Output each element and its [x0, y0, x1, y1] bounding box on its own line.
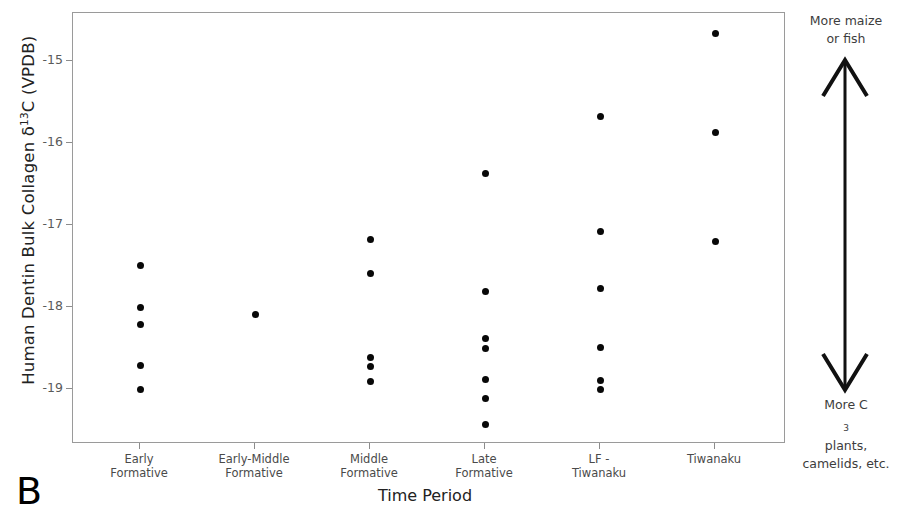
scatter-point: [597, 113, 604, 120]
scatter-point: [137, 262, 144, 269]
annotation-line-2: or fish: [778, 30, 906, 48]
x-axis-tick: [714, 443, 715, 449]
scatter-point: [482, 170, 489, 177]
y-axis-title-prefix: Human Dentin Bulk Collagen δ: [19, 126, 38, 385]
x-axis-tick-label-line: Tiwanaku: [654, 452, 774, 466]
annotation-line-1: More maize: [778, 12, 906, 30]
scatter-point: [712, 30, 719, 37]
annotation-line-1: More C3 plants,: [778, 396, 906, 455]
y-axis-title-superscript: 13: [18, 112, 30, 126]
scatter-point: [367, 236, 374, 243]
x-axis-tick: [599, 443, 600, 449]
annotation-more-c3-plants: More C3 plants, camelids, etc.: [778, 396, 906, 473]
figure-panel-b: Human Dentin Bulk Collagen δ13C (VPDB) -…: [0, 0, 906, 514]
scatter-point: [137, 386, 144, 393]
scatter-point: [252, 311, 259, 318]
scatter-point: [367, 363, 374, 370]
y-axis-tick-label: -16: [43, 134, 63, 149]
y-axis-title: Human Dentin Bulk Collagen δ13C (VPDB): [18, 0, 39, 420]
scatter-point: [137, 304, 144, 311]
x-axis-tick: [254, 443, 255, 449]
scatter-point: [597, 386, 604, 393]
y-axis-tick-label: -18: [43, 298, 63, 313]
scatter-point: [367, 378, 374, 385]
x-axis-tick-label: LateFormative: [424, 452, 544, 480]
x-axis-tick-label-line: Formative: [424, 466, 544, 480]
scatter-point: [712, 129, 719, 136]
scatter-point: [367, 354, 374, 361]
scatter-point: [482, 345, 489, 352]
x-axis-tick-label-line: Tiwanaku: [539, 466, 659, 480]
annotation-more-maize-or-fish: More maize or fish: [778, 12, 906, 48]
x-axis-tick: [139, 443, 140, 449]
scatter-point: [712, 238, 719, 245]
x-axis-tick-label-line: LF -: [539, 452, 659, 466]
scatter-point: [597, 377, 604, 384]
x-axis-tick-label: LF -Tiwanaku: [539, 452, 659, 480]
annotation-c3-prefix: More C: [778, 396, 906, 414]
annotation-c3-suffix: plants,: [778, 437, 906, 455]
annotation-line-2: camelids, etc.: [778, 455, 906, 473]
y-axis-tick-label: -17: [43, 216, 63, 231]
panel-label: B: [16, 472, 42, 510]
x-axis-tick-label-line: Early-Middle: [194, 452, 314, 466]
y-axis-title-suffix: C (VPDB): [19, 36, 38, 113]
x-axis-tick: [484, 443, 485, 449]
x-axis-tick-label: Tiwanaku: [654, 452, 774, 466]
y-axis-tick-label: -15: [43, 52, 63, 67]
scatter-point: [137, 321, 144, 328]
x-axis-tick: [369, 443, 370, 449]
x-axis-tick-label-line: Early: [79, 452, 199, 466]
scatter-point: [597, 285, 604, 292]
x-axis-tick-label: MiddleFormative: [309, 452, 429, 480]
x-axis-title: Time Period: [305, 486, 545, 505]
x-axis-tick-label-line: Formative: [309, 466, 429, 480]
y-axis-tick-label: -19: [43, 380, 63, 395]
x-axis-tick-label-line: Late: [424, 452, 544, 466]
scatter-point: [482, 395, 489, 402]
scatter-point: [482, 376, 489, 383]
annotation-c3-subscript: 3: [843, 423, 849, 433]
x-axis-tick-label: Early-MiddleFormative: [194, 452, 314, 480]
plot-area: [72, 12, 785, 443]
double-headed-vertical-arrow-icon: [805, 52, 885, 398]
scatter-point: [597, 228, 604, 235]
scatter-point: [482, 335, 489, 342]
scatter-point: [597, 344, 604, 351]
x-axis-tick-label-line: Middle: [309, 452, 429, 466]
scatter-point: [137, 362, 144, 369]
x-axis-tick-label-line: Formative: [79, 466, 199, 480]
scatter-point: [482, 288, 489, 295]
scatter-point: [367, 270, 374, 277]
x-axis-tick-label-line: Formative: [194, 466, 314, 480]
x-axis-tick-label: EarlyFormative: [79, 452, 199, 480]
scatter-point: [482, 421, 489, 428]
